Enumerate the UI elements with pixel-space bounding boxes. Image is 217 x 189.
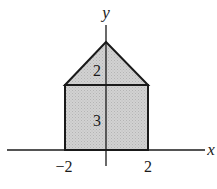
y-axis-label: y bbox=[100, 3, 110, 22]
house-shape-diagram: y x −2 2 2 3 bbox=[0, 0, 217, 189]
x-tick-label-neg2: −2 bbox=[55, 158, 72, 175]
triangle-height-label: 2 bbox=[93, 62, 101, 79]
rectangle-height-label: 3 bbox=[93, 112, 101, 129]
x-axis-label: x bbox=[206, 140, 215, 159]
x-tick-label-2: 2 bbox=[144, 158, 152, 175]
